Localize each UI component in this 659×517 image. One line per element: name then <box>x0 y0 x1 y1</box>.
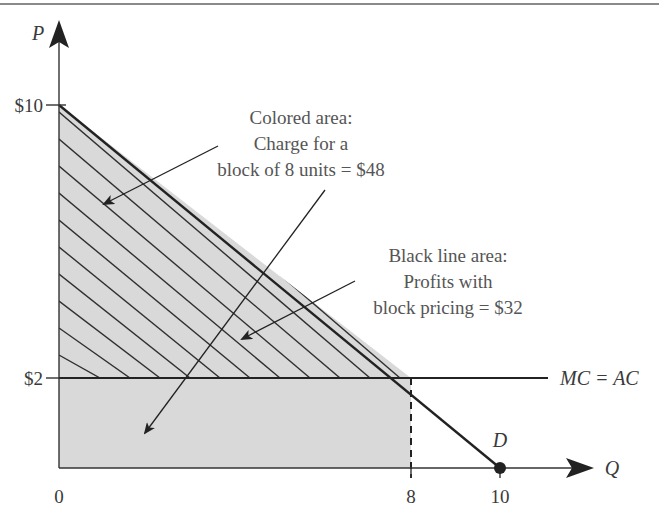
annotation-black-line2: Profits with <box>403 271 493 292</box>
annotation-black-line1: Black line area: <box>388 245 507 266</box>
y-tick-label-10: $10 <box>15 95 44 116</box>
y-tick-label-2: $2 <box>24 368 43 389</box>
demand-label: D <box>492 429 508 451</box>
annotation-black-line-area: Black line area: Profits with block pric… <box>373 245 523 318</box>
x-tick-label-8: 8 <box>406 486 416 507</box>
block-pricing-chart: $10 $2 0 8 10 P Q MC = AC D Colored area… <box>0 0 659 517</box>
mc-ac-label: MC = AC <box>559 367 639 389</box>
demand-endpoint-marker <box>494 462 506 474</box>
annotation-colored-line1: Colored area: <box>250 107 353 128</box>
y-axis-label: P <box>31 22 44 44</box>
x-axis-label: Q <box>605 457 620 479</box>
x-tick-label-0: 0 <box>54 486 64 507</box>
x-tick-label-10: 10 <box>491 486 510 507</box>
annotation-colored-line2: Charge for a <box>254 133 349 154</box>
annotation-colored-line3: block of 8 units = $48 <box>217 159 384 180</box>
annotation-colored-area: Colored area: Charge for a block of 8 un… <box>217 107 384 180</box>
annotation-black-line3: block pricing = $32 <box>373 297 523 318</box>
